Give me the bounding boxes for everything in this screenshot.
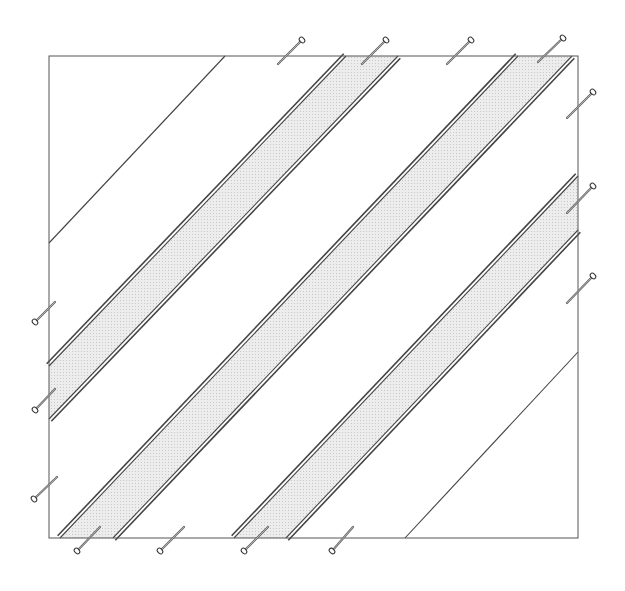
pin-icon: [156, 527, 184, 555]
pin-icon: [567, 272, 597, 303]
pin-icon: [328, 527, 353, 555]
pin-icon: [31, 302, 55, 326]
pin-icon: [278, 36, 306, 64]
pin-icon: [447, 36, 475, 64]
quilt-block-diagram: [0, 0, 625, 591]
pin-icon: [567, 88, 597, 118]
pin-icon: [30, 477, 57, 503]
